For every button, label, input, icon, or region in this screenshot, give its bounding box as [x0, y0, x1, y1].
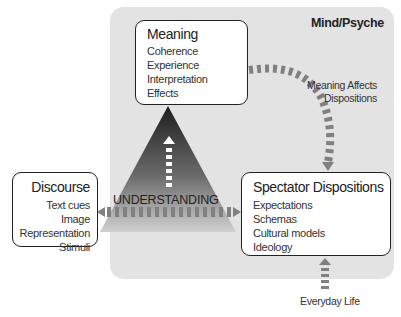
- meaning-item: Experience: [147, 58, 247, 72]
- spectator-item: Schemas: [253, 212, 390, 226]
- everyday-life-label: Everyday Life: [300, 295, 360, 308]
- meaning-affects-label: Meaning Affects Dispositions: [285, 79, 377, 105]
- spectator-item: Cultural models: [253, 226, 390, 240]
- spectator-item: Ideology: [253, 240, 390, 254]
- spectator-title: Spectator Dispositions: [253, 179, 390, 195]
- discourse-box: Discourse Text cues Image Representation…: [12, 172, 98, 247]
- discourse-item: Text cues: [13, 198, 90, 212]
- spectator-item: Expectations: [253, 198, 390, 212]
- meaning-affects-line2: Dispositions: [285, 92, 377, 105]
- discourse-title: Discourse: [13, 179, 90, 195]
- meaning-box: Meaning Coherence Experience Interpretat…: [135, 20, 248, 105]
- meaning-affects-line1: Meaning Affects: [285, 79, 377, 92]
- meaning-title: Meaning: [147, 26, 247, 42]
- everyday-life-arrow: [319, 258, 331, 289]
- meaning-item: Coherence: [147, 44, 247, 58]
- meaning-item: Effects: [147, 86, 247, 100]
- meaning-item: Interpretation: [147, 72, 247, 86]
- discourse-item: Representation: [13, 226, 90, 240]
- discourse-item: Stimuli: [13, 240, 90, 254]
- understanding-label: UNDERSTANDING: [113, 194, 219, 207]
- spectator-dispositions-box: Spectator Dispositions Expectations Sche…: [241, 172, 391, 256]
- discourse-item: Image: [13, 212, 90, 226]
